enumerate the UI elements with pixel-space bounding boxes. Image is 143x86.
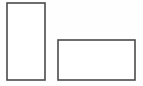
landscape-rectangle[interactable] <box>58 40 135 80</box>
figure-canvas <box>0 0 143 86</box>
shapes-svg <box>0 0 143 86</box>
portrait-rectangle[interactable] <box>7 3 45 80</box>
